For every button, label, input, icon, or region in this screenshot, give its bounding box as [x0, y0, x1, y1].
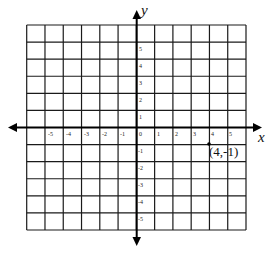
y-tick-label: 4: [139, 63, 142, 69]
x-tick-label: 5: [229, 131, 232, 137]
x-tick-label: -3: [84, 131, 89, 137]
coordinate-plane: [0, 0, 273, 253]
x-tick-label: -2: [102, 131, 107, 137]
x-tick-label: -1: [120, 131, 125, 137]
y-tick-label: 3: [139, 80, 142, 86]
x-tick-label: 1: [157, 131, 160, 137]
y-axis-label: y: [141, 3, 148, 18]
y-tick-label: 2: [139, 97, 142, 103]
y-tick-label: -2: [138, 165, 143, 171]
y-tick-label: -1: [138, 148, 143, 154]
x-tick-label: 2: [175, 131, 178, 137]
y-tick-label: -5: [138, 216, 143, 222]
point-label: (4,-1): [209, 145, 238, 158]
y-tick-label: -3: [138, 182, 143, 188]
arrow-left-icon: [8, 123, 17, 132]
arrow-up-icon: [133, 10, 142, 19]
y-tick-label: 1: [139, 114, 142, 120]
arrow-down-icon: [133, 237, 142, 246]
x-axis-label: x: [258, 130, 265, 145]
x-axis: [8, 123, 262, 132]
x-tick-label: 0: [139, 131, 142, 137]
x-tick-label: -5: [48, 131, 53, 137]
x-tick-label: 3: [193, 131, 196, 137]
y-tick-label: -4: [138, 199, 143, 205]
x-tick-label: -4: [66, 131, 71, 137]
y-tick-label: 5: [139, 46, 142, 52]
x-tick-label: 4: [211, 131, 214, 137]
